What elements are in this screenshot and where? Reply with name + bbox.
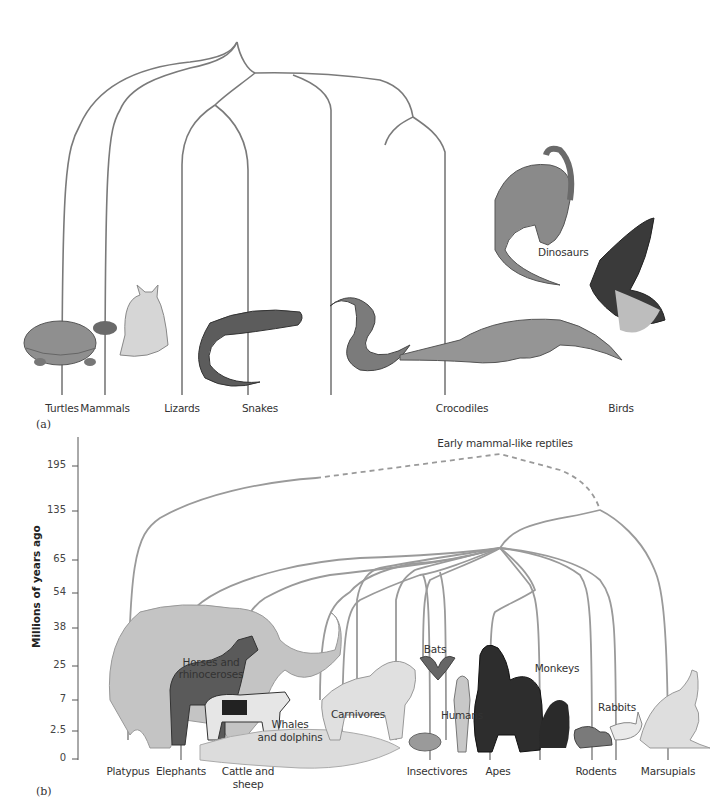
bat-illustration [420,656,455,680]
y-tick-135: 135 [36,504,66,515]
y-tick-0: 0 [36,752,66,763]
monkey-illustration [539,700,569,748]
gorilla-illustration [474,645,543,752]
inner-label-monkeys: Monkeys [535,662,580,674]
taxon-label-platypus: Platypus [106,765,149,777]
y-tick-25: 25 [36,659,66,670]
taxon-label-snakes: Snakes [242,402,278,414]
inner-label-whales: Whales [271,718,308,730]
y-tick-2-5: 2.5 [36,724,66,735]
armadillo-illustration [409,733,441,751]
y-tick-7: 7 [36,693,66,704]
taxon-label-apes: Apes [486,765,511,777]
taxon-label-lizards: Lizards [164,402,200,414]
taxon-label-rodents: Rodents [575,765,616,777]
panel-label-a: (a) [36,418,51,431]
kangaroo-illustration [640,670,710,748]
squirrel-illustration [574,726,612,748]
rabbit-illustration [610,712,642,740]
cow-spot [222,700,247,715]
y-tick-195: 195 [36,459,66,470]
panel-label-b: (b) [36,785,52,798]
inner-label-rabbits: Rabbits [598,701,636,713]
root-label-early-mammal-like-reptiles: Early mammal-like reptiles [437,437,572,449]
taxon-label-elephants: Elephants [156,765,206,777]
y-axis-title: Millions of years ago [30,525,42,648]
inner-label-humans: Humans [441,709,483,721]
taxon-label-cattle-and: Cattle and [222,765,274,777]
inner-label-carnivores: Carnivores [331,708,385,720]
inner-label-dinosaurs: Dinosaurs [538,246,589,258]
taxon-label-mammals: Mammals [80,402,129,414]
taxon-label-crocodiles: Crocodiles [436,402,488,414]
inner-label-bats: Bats [424,643,446,655]
taxon-label-insectivores: Insectivores [407,765,468,777]
taxon-label-birds: Birds [608,402,633,414]
inner-label-horses: Horses and [182,656,239,668]
inner-label-rhinoceroses: rhinoceroses [179,668,244,680]
taxon-label-marsupials: Marsupials [641,765,695,777]
taxon-label-sheep: sheep [233,778,264,790]
taxon-label-turtles: Turtles [45,402,78,414]
lion-illustration [322,661,416,740]
inner-label-and-dolphins: and dolphins [257,731,322,743]
